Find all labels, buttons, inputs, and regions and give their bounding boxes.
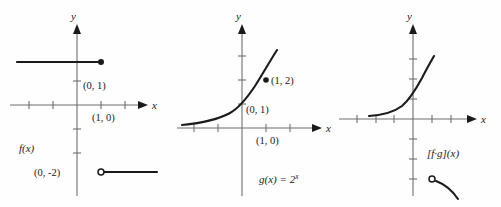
y-axis-arrow-f <box>73 24 81 34</box>
annotation-1-2-g: (1, 2) <box>271 75 294 87</box>
graph-panel-fg: [f·g](x) x y <box>334 0 501 207</box>
x-axis-label-fg: x <box>480 113 486 125</box>
g-point-1-2 <box>263 77 269 83</box>
y-axis-label-g: y <box>235 10 241 22</box>
f-upper-closed-endpoint <box>98 59 104 65</box>
function-label-g-base: g(x) = 2 <box>259 173 296 186</box>
fg-exponential-branch <box>369 56 434 116</box>
function-label-f: f(x) <box>19 142 35 155</box>
function-label-fg: [f·g](x) <box>427 147 459 160</box>
y-axis-label-f: y <box>70 10 76 22</box>
annotation-0-minus2-f: (0, -2) <box>34 167 61 179</box>
composite-function-figure: (0, 1) (1, 0) (0, -2) f(x) x y <box>0 0 501 207</box>
y-axis-arrow-g <box>238 24 246 34</box>
annotation-0-1-g: (0, 1) <box>246 104 269 116</box>
annotation-1-0-g: (1, 0) <box>256 135 279 147</box>
fg-negative-branch <box>436 181 458 199</box>
annotation-1-0-f: (1, 0) <box>92 112 115 124</box>
x-axis-arrow-g <box>312 124 322 132</box>
x-axis-label-f: x <box>151 99 157 111</box>
function-label-g-exponent: x <box>294 172 299 181</box>
f-lower-open-endpoint <box>98 169 104 175</box>
x-axis-label-g: x <box>325 122 331 134</box>
y-axis-label-fg: y <box>406 10 412 22</box>
fg-open-endpoint <box>429 176 435 182</box>
graph-panel-g: (1, 2) (0, 1) (1, 0) g(x) = 2x x y <box>167 0 334 207</box>
graph-panel-f: (0, 1) (1, 0) (0, -2) f(x) x y <box>0 0 167 207</box>
x-axis-arrow-fg <box>467 115 477 123</box>
y-axis-arrow-fg <box>409 24 417 34</box>
x-axis-arrow-f <box>138 101 148 109</box>
function-label-g: g(x) = 2x <box>259 172 299 186</box>
annotation-0-1-f: (0, 1) <box>83 80 106 92</box>
